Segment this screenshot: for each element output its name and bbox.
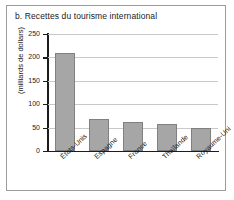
y-axis-tick <box>43 151 48 152</box>
y-axis-tick-label: 250 <box>14 30 40 37</box>
figure-panel: b. Recettes du tourisme international (m… <box>6 5 226 191</box>
y-axis-tick-label: 100 <box>14 100 40 107</box>
y-axis-tick-label: 0 <box>14 147 40 154</box>
y-axis-tick <box>43 128 48 129</box>
chart-title: b. Recettes du tourisme international <box>15 11 157 21</box>
y-axis-tick <box>43 57 48 58</box>
y-axis-tick <box>43 104 48 105</box>
bar <box>55 53 74 151</box>
y-axis-tick-label: 50 <box>14 124 40 131</box>
plot-area <box>48 34 218 151</box>
y-axis-tick-label: 200 <box>14 53 40 60</box>
y-axis-tick-label: 150 <box>14 77 40 84</box>
y-axis-tick <box>43 81 48 82</box>
y-axis-tick <box>43 34 48 35</box>
gridline <box>48 34 218 35</box>
